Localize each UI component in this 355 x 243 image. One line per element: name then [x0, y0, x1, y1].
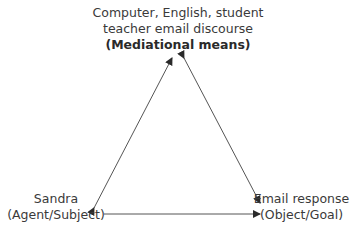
edge-left-top — [94, 58, 172, 208]
node-object-goal: Email response (Object/Goal) — [248, 191, 355, 223]
node-top-line-1: Computer, English, student — [78, 5, 278, 21]
node-right-line-2: (Object/Goal) — [248, 207, 355, 223]
edge-top-right — [184, 58, 260, 203]
node-agent-subject: Sandra (Agent/Subject) — [0, 191, 112, 223]
node-left-line-1: Sandra — [0, 191, 112, 207]
node-mediational-means: Computer, English, student teacher email… — [78, 5, 278, 53]
node-top-label: (Mediational means) — [78, 37, 278, 53]
node-top-line-2: teacher email discourse — [78, 21, 278, 37]
node-right-line-1: Email response — [248, 191, 355, 207]
node-left-line-2: (Agent/Subject) — [0, 207, 112, 223]
